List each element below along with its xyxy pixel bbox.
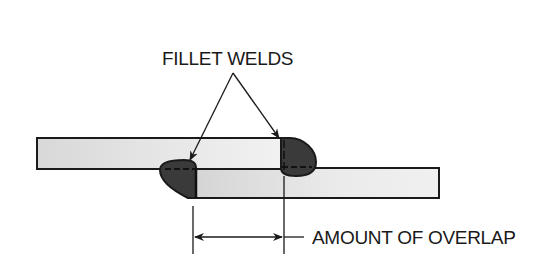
overlap-label: AMOUNT OF OVERLAP <box>312 227 516 249</box>
fillet-welds-label: FILLET WELDS <box>162 48 293 70</box>
fillet-weld-left <box>160 160 196 198</box>
bottom-plate <box>190 168 439 198</box>
fillet-weld-right <box>281 138 316 176</box>
lap-joint-diagram <box>0 0 555 262</box>
